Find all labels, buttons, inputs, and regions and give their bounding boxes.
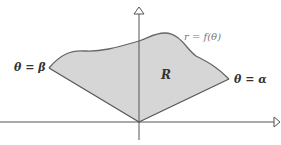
x-axis-arrow-icon [274, 117, 280, 127]
label-curve-equation: r = f(θ) [184, 32, 221, 42]
label-region-r: R [161, 69, 171, 81]
label-theta-alpha: θ = α [234, 74, 267, 85]
label-theta-beta: θ = β [14, 62, 46, 73]
y-axis-arrow-icon [134, 7, 144, 14]
